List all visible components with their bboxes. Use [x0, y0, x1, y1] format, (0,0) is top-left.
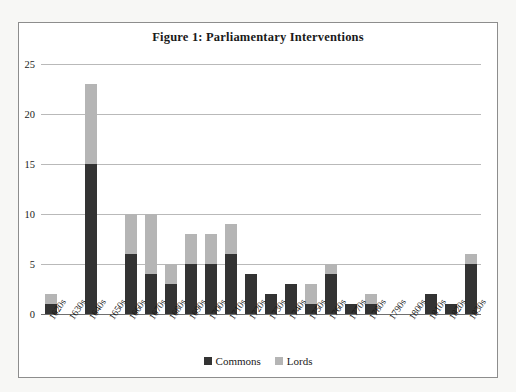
bar-slot-1630s	[61, 64, 81, 314]
bar-slot-1670s	[141, 64, 161, 314]
bar-1640s[interactable]	[85, 84, 97, 314]
chart-legend: CommonsLords	[19, 355, 497, 367]
bar-slot-1660s	[121, 64, 141, 314]
lords-swatch	[275, 357, 283, 365]
bar-slot-1780s	[361, 64, 381, 314]
legend-item-lords[interactable]: Lords	[275, 355, 313, 367]
legend-label-commons: Commons	[216, 355, 261, 367]
bar-slot-1790s	[381, 64, 401, 314]
bar-slot-1800s	[401, 64, 421, 314]
bar-segment-lords-1680s[interactable]	[165, 264, 177, 284]
y-tick-label-20: 20	[25, 109, 36, 120]
chart-title: Figure 1: Parliamentary Interventions	[19, 30, 497, 45]
bar-segment-lords-1710s[interactable]	[225, 224, 237, 254]
legend-item-commons[interactable]: Commons	[204, 355, 261, 367]
bar-slot-1740s	[281, 64, 301, 314]
bar-slot-1640s	[81, 64, 101, 314]
bar-slot-1730s	[261, 64, 281, 314]
bar-slot-1770s	[341, 64, 361, 314]
bar-1670s[interactable]	[145, 214, 157, 314]
legend-label-lords: Lords	[287, 355, 313, 367]
plot-area: 0510152025	[41, 64, 481, 314]
bar-segment-lords-1830s[interactable]	[465, 254, 477, 264]
bar-slot-1810s	[421, 64, 441, 314]
bar-slot-1820s	[441, 64, 461, 314]
figure-page: Figure 1: Parliamentary Interventions 05…	[0, 0, 516, 392]
y-tick-label-10: 10	[25, 209, 36, 220]
bar-segment-lords-1760s[interactable]	[325, 264, 337, 274]
bar-slot-1680s	[161, 64, 181, 314]
bar-segment-lords-1690s[interactable]	[185, 234, 197, 264]
bar-segment-lords-1670s[interactable]	[145, 214, 157, 274]
bar-series-group	[41, 64, 481, 314]
figure-frame: Figure 1: Parliamentary Interventions 05…	[18, 22, 498, 378]
y-tick-label-5: 5	[30, 259, 35, 270]
bar-1660s[interactable]	[125, 214, 137, 314]
bar-slot-1700s	[201, 64, 221, 314]
bar-slot-1760s	[321, 64, 341, 314]
y-tick-label-15: 15	[25, 159, 36, 170]
bar-1710s[interactable]	[225, 224, 237, 314]
bar-segment-lords-1660s[interactable]	[125, 214, 137, 254]
bar-segment-commons-1640s[interactable]	[85, 164, 97, 314]
bar-slot-1650s	[101, 64, 121, 314]
bar-slot-1710s	[221, 64, 241, 314]
bar-slot-1690s	[181, 64, 201, 314]
bar-segment-lords-1700s[interactable]	[205, 234, 217, 264]
y-tick-label-25: 25	[25, 59, 36, 70]
bar-slot-1720s	[241, 64, 261, 314]
y-tick-label-0: 0	[30, 309, 35, 320]
bar-slot-1830s	[461, 64, 481, 314]
bar-slot-1750s	[301, 64, 321, 314]
bar-slot-1620s	[41, 64, 61, 314]
commons-swatch	[204, 357, 212, 365]
bar-segment-lords-1640s[interactable]	[85, 84, 97, 164]
